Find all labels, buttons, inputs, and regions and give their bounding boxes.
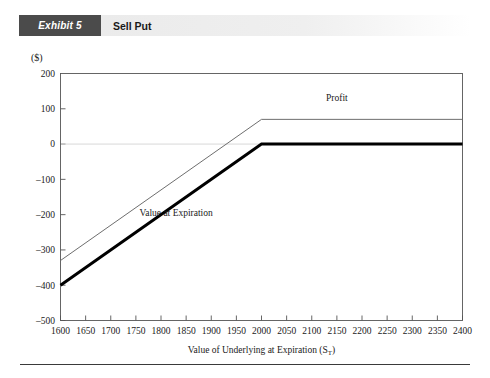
x-tick-label: 2350 <box>428 326 447 336</box>
y-tick-label: 200 <box>41 69 56 79</box>
x-tick-label: 1850 <box>177 326 196 336</box>
x-tick-label: 1900 <box>202 326 221 336</box>
x-tick-label: 1750 <box>126 326 145 336</box>
x-tick-label: 2250 <box>378 326 397 336</box>
x-tick-label: 2400 <box>453 326 472 336</box>
series-line-value-at-expiration <box>61 144 463 285</box>
x-axis-ticks <box>61 316 463 321</box>
y-tick-label: –200 <box>35 210 55 220</box>
x-axis-tick-labels: 1600165017001750180018501900195020002050… <box>51 326 472 336</box>
x-tick-label: 2200 <box>353 326 372 336</box>
plot-frame <box>61 74 463 321</box>
x-tick-label: 2150 <box>327 326 346 336</box>
y-tick-label: –400 <box>35 281 55 291</box>
x-tick-label: 2300 <box>403 326 422 336</box>
x-tick-label: 1800 <box>152 326 171 336</box>
y-axis-ticks <box>61 109 66 321</box>
x-tick-label: 2050 <box>277 326 296 336</box>
payoff-chart: 2001000–100–200–300–400–500 160016501700… <box>0 0 490 378</box>
series-label-profit: Profit <box>326 93 348 103</box>
exhibit-page: Exhibit 5 Sell Put ($) 2001000–100–200–3… <box>0 0 490 378</box>
y-tick-label: 0 <box>50 139 55 149</box>
x-tick-label: 2000 <box>252 326 271 336</box>
y-axis-tick-labels: 2001000–100–200–300–400–500 <box>35 69 55 326</box>
x-tick-label: 1700 <box>101 326 120 336</box>
x-tick-label: 1650 <box>76 326 95 336</box>
x-tick-label: 1950 <box>227 326 246 336</box>
y-tick-label: –500 <box>35 316 55 326</box>
y-tick-label: 100 <box>41 104 56 114</box>
x-tick-label: 1600 <box>51 326 70 336</box>
x-axis-title: Value of Underlying at Expiration (ST) <box>188 345 336 358</box>
x-axis-title-text: Value of Underlying at Expiration (ST) <box>188 345 336 358</box>
x-tick-label: 2100 <box>302 326 321 336</box>
y-tick-label: –100 <box>35 175 55 185</box>
footer-divider <box>20 364 470 365</box>
series-label-value-at-expiration: Value at Expiration <box>139 208 213 218</box>
y-tick-label: –300 <box>35 245 55 255</box>
series-line-profit <box>61 119 463 260</box>
